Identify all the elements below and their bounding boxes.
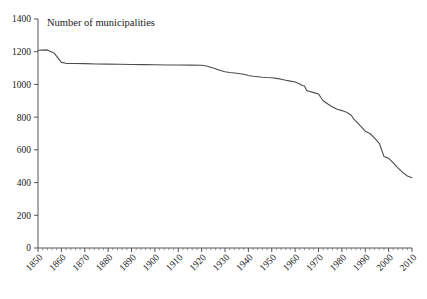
series-line-municipalities	[38, 50, 412, 178]
x-tick-label: 1930	[211, 252, 232, 273]
x-tick-label: 1850	[24, 252, 45, 273]
x-axis-tick-labels: 1850186018701880189019001910192019301940…	[24, 252, 419, 273]
chart-container: 0200400600800100012001400 18501860187018…	[0, 0, 427, 299]
x-tick-label: 1970	[304, 252, 325, 273]
y-axis-ticks	[34, 19, 38, 248]
x-tick-label: 1860	[47, 252, 68, 273]
x-tick-label: 1890	[117, 252, 138, 273]
y-tick-label: 400	[17, 178, 32, 188]
x-tick-label: 1870	[71, 252, 92, 273]
x-tick-label: 1960	[281, 252, 302, 273]
x-tick-label: 1990	[351, 252, 372, 273]
x-tick-label: 1900	[141, 252, 162, 273]
y-tick-label: 600	[17, 145, 32, 155]
plot-area: 0200400600800100012001400 18501860187018…	[12, 14, 419, 272]
municipalities-line-chart: 0200400600800100012001400 18501860187018…	[0, 0, 427, 299]
x-tick-label: 1880	[94, 252, 115, 273]
y-tick-label: 1400	[12, 14, 31, 24]
x-tick-label: 1910	[164, 252, 185, 273]
y-tick-label: 200	[17, 211, 32, 221]
x-tick-label: 1980	[328, 252, 349, 273]
x-tick-label: 1920	[188, 252, 209, 273]
x-tick-label: 1950	[258, 252, 279, 273]
y-tick-label: 1000	[12, 80, 31, 90]
y-tick-label: 1200	[12, 47, 31, 57]
y-axis-tick-labels: 0200400600800100012001400	[12, 14, 31, 253]
x-tick-label: 2000	[375, 252, 396, 273]
y-tick-label: 800	[17, 113, 32, 123]
chart-title: Number of municipalities	[47, 17, 155, 28]
x-tick-label: 1940	[234, 252, 255, 273]
y-tick-label: 0	[26, 243, 31, 253]
x-tick-label: 2010	[398, 252, 419, 273]
